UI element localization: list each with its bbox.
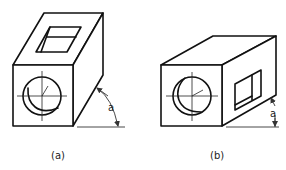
caption-b: (b) (210, 150, 224, 161)
block-a-front-face (13, 65, 73, 126)
figure-canvas: a (a) a (0, 0, 286, 170)
figure-b: a (b) (161, 36, 279, 161)
block-b-front-face (161, 65, 222, 126)
dimension-label-a-b: a (270, 108, 276, 119)
caption-a: (a) (51, 150, 65, 161)
dimension-label-a: a (108, 102, 114, 113)
figure-a: a (a) (13, 13, 125, 161)
